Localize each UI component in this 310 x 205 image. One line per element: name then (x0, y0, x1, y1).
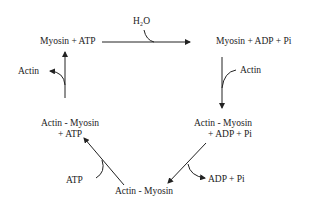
node-myosin-atp: Myosin + ATP (40, 36, 96, 47)
arrow-atp-in (96, 160, 103, 178)
label-actin-out: Actin (18, 66, 39, 77)
label-actin-in: Actin (240, 65, 261, 76)
cycle-arrows (0, 0, 310, 205)
label-adp-pi-out: ADP + Pi (208, 174, 245, 185)
node-myosin-adp-pi: Myosin + ADP + Pi (216, 36, 291, 47)
label-h2o: H₂O (133, 16, 150, 27)
arrow-h2o-in (144, 30, 154, 42)
node-line-2: + ADP + Pi (188, 129, 258, 140)
node-actin-myosin-adp-pi: Actin - Myosin + ADP + Pi (188, 118, 258, 140)
node-line-2: + ATP (38, 129, 102, 140)
arrow-atp-binding (84, 138, 124, 185)
arrow-adp-pi-out (188, 164, 205, 178)
node-actin-myosin-atp: Actin - Myosin + ATP (38, 118, 102, 140)
label-atp-in: ATP (66, 175, 83, 186)
node-line-1: Actin - Myosin (38, 118, 102, 129)
arrow-actin-in (222, 70, 236, 88)
node-line-1: Actin - Myosin (188, 118, 258, 129)
node-actin-myosin: Actin - Myosin (115, 186, 173, 197)
arrow-actin-out (50, 71, 65, 85)
